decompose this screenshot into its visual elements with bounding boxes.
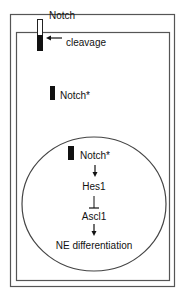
arrow-down-icon: [93, 165, 98, 177]
notch-label: Notch: [49, 10, 75, 21]
notch-star-cytoplasm-label: Notch*: [60, 90, 90, 101]
notch-star-cytoplasm-icon: [50, 86, 55, 100]
ascl1-label: Ascl1: [82, 211, 107, 222]
cleavage-arrow-icon: [46, 36, 62, 41]
notch-pathway-diagram: Notch cleavage Notch* Notch* Hes1 Ascl1 …: [0, 0, 185, 300]
hes1-label: Hes1: [82, 181, 106, 192]
inhibition-bar-icon: [89, 196, 99, 208]
notch-star-nucleus-icon: [68, 146, 74, 160]
notch-star-nucleus-label: Notch*: [80, 150, 110, 161]
arrow-down-icon: [92, 224, 97, 236]
notch-receptor-icon: [37, 20, 43, 52]
ne-differentiation-label: NE differentiation: [56, 240, 133, 251]
cleavage-label: cleavage: [66, 37, 106, 48]
